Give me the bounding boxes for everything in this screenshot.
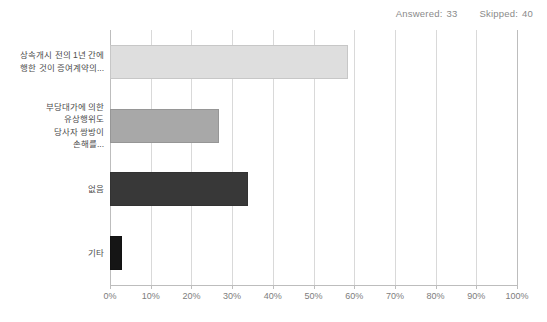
skipped-label: Skipped: bbox=[479, 8, 518, 19]
answered-label: Answered: bbox=[396, 8, 443, 19]
category-label: 부당대가에 의한 유상행위도 당사자 쌍방이 손해를... bbox=[0, 101, 104, 151]
gridline bbox=[517, 30, 518, 285]
bar-row bbox=[110, 109, 517, 143]
category-label: 없음 bbox=[0, 183, 104, 196]
survey-bar-chart: Answered: 33 Skipped: 40 상속개시 전의 1년 간에 행… bbox=[0, 0, 547, 322]
tick-label: 60% bbox=[345, 291, 363, 301]
tick-label: 10% bbox=[142, 291, 160, 301]
skipped-value: 40 bbox=[522, 8, 533, 19]
tick-mark bbox=[191, 285, 192, 289]
tick-label: 90% bbox=[467, 291, 485, 301]
tick-mark bbox=[232, 285, 233, 289]
tick-label: 20% bbox=[182, 291, 200, 301]
tick-label: 80% bbox=[427, 291, 445, 301]
bar-series bbox=[110, 30, 517, 285]
tick-label: 0% bbox=[103, 291, 116, 301]
bar bbox=[110, 109, 219, 143]
survey-response-summary: Answered: 33 Skipped: 40 bbox=[396, 8, 533, 19]
category-label: 상속개시 전의 1년 간에 행한 것이 증여계약의... bbox=[0, 49, 104, 74]
tick-label: 100% bbox=[505, 291, 528, 301]
bar-row bbox=[110, 45, 517, 79]
category-axis-labels: 상속개시 전의 1년 간에 행한 것이 증여계약의...부당대가에 의한 유상행… bbox=[0, 30, 104, 285]
bar-row bbox=[110, 236, 517, 270]
answered-stat: Answered: 33 bbox=[396, 8, 458, 19]
skipped-stat: Skipped: 40 bbox=[479, 8, 533, 19]
tick-mark bbox=[110, 285, 111, 289]
tick-mark bbox=[517, 285, 518, 289]
tick-mark bbox=[476, 285, 477, 289]
tick-mark bbox=[436, 285, 437, 289]
bar bbox=[110, 45, 348, 79]
tick-label: 50% bbox=[304, 291, 322, 301]
tick-mark bbox=[151, 285, 152, 289]
tick-mark bbox=[314, 285, 315, 289]
plot-area bbox=[110, 30, 517, 285]
category-label: 기타 bbox=[0, 247, 104, 260]
tick-mark bbox=[273, 285, 274, 289]
bar bbox=[110, 172, 248, 206]
bar bbox=[110, 236, 122, 270]
bar-row bbox=[110, 172, 517, 206]
x-axis-ticks: 0%10%20%30%40%50%60%70%80%90%100% bbox=[110, 285, 517, 305]
tick-mark bbox=[395, 285, 396, 289]
tick-label: 40% bbox=[264, 291, 282, 301]
tick-label: 70% bbox=[386, 291, 404, 301]
tick-mark bbox=[354, 285, 355, 289]
answered-value: 33 bbox=[446, 8, 457, 19]
tick-label: 30% bbox=[223, 291, 241, 301]
